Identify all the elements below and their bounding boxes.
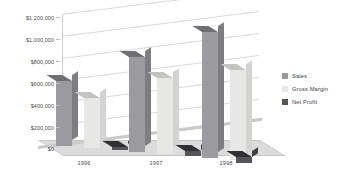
gridline-1000000 [63,11,259,37]
chart-legend: Sales Gross Margin Net Profit [282,70,346,109]
bar-front-face [84,98,100,148]
bar-front-face [202,32,218,158]
bar-side-face [246,60,252,154]
x-axis-label-1997: 1997 [136,160,176,166]
x-axis-label-1998: 1998 [206,160,246,166]
bar-front-face [230,70,246,160]
gross-margin-swatch-icon [282,86,288,92]
bar-front-face [129,57,145,152]
bar-net-profit-1997 [185,151,201,156]
y-axis-label-0: $0 [48,146,54,152]
gridline-800000 [63,33,259,59]
y-axis-label-400000: $400,000 [31,103,54,109]
net-profit-swatch-icon [282,99,288,105]
y-axis-tick [56,17,60,18]
bar-front-face [157,78,173,154]
y-axis-tick [56,83,60,84]
bar-sales-1998 [202,32,218,158]
legend-label-net-profit: Net Profit [292,99,317,105]
gridline-1200000 [63,0,259,15]
bar-side-face [100,88,106,142]
bar-side-face [173,68,179,148]
legend-item-gross-margin: Gross Margin [282,83,346,95]
y-axis-tick [56,105,60,106]
bar-side-face [72,71,78,140]
bar-front-face [112,147,128,150]
bar-net-profit-1996 [112,147,128,150]
legend-label-gross-margin: Gross Margin [292,86,328,92]
y-axis-tick [56,39,60,40]
bar-front-face [185,151,201,156]
x-axis-label-1996: 1996 [64,160,104,166]
y-axis-label-800000: $800,000 [31,59,54,65]
legend-item-sales: Sales [282,70,346,82]
bar-sales-1997 [129,57,145,152]
y-axis-label-200000: $200,000 [31,125,54,131]
sales-swatch-icon [282,73,288,79]
legend-label-sales: Sales [292,73,307,79]
y-axis: $1,200,000 $1,000,000 $800,000 $600,000 … [0,0,62,178]
legend-item-net-profit: Net Profit [282,96,346,108]
y-axis-label-600000: $600,000 [31,81,54,87]
column-chart: $1,200,000 $1,000,000 $800,000 $600,000 … [0,0,347,178]
bar-side-face [145,47,151,146]
bar-gross-margin-1996 [84,98,100,148]
y-axis-tick [56,61,60,62]
y-axis-tick [56,127,60,128]
bar-gross-margin-1998 [230,70,246,160]
y-axis-label-1200000: $1,200,000 [26,15,54,21]
bar-gross-margin-1997 [157,78,173,154]
y-axis-label-1000000: $1,000,000 [26,37,54,43]
bar-side-face [218,22,224,152]
